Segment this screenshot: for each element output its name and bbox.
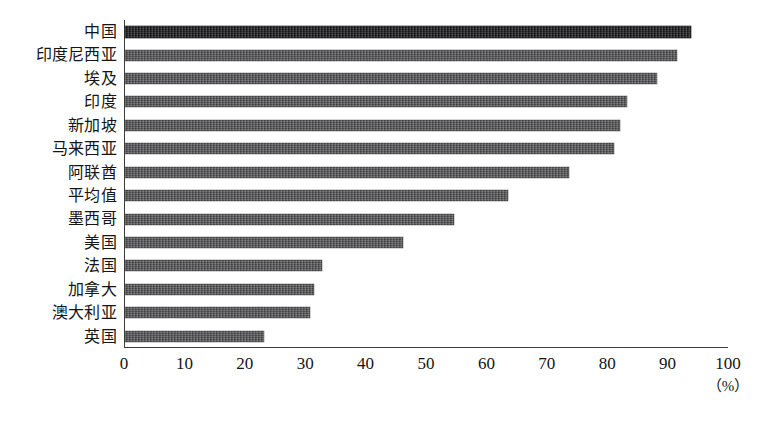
x-tick-label: 0 (120, 352, 129, 376)
bar (125, 26, 691, 38)
bar-row (125, 90, 728, 113)
category-label: 法国 (0, 254, 117, 277)
bar-row (125, 43, 728, 66)
bar-row (125, 301, 728, 324)
category-label: 平均值 (0, 184, 117, 207)
bar-row (125, 207, 728, 230)
category-label: 中国 (0, 20, 117, 43)
category-label: 美国 (0, 231, 117, 254)
bar-row (125, 231, 728, 254)
x-tick-label: 100 (715, 352, 741, 376)
bar-row (125, 137, 728, 160)
x-tick-label: 80 (599, 352, 616, 376)
category-label: 墨西哥 (0, 207, 117, 230)
bar (125, 96, 627, 107)
bar-chart: 中国印度尼西亚埃及印度新加坡马来西亚阿联酋平均值墨西哥美国法国加拿大澳大利亚英国… (0, 0, 762, 432)
bar (125, 214, 454, 225)
category-label: 加拿大 (0, 278, 117, 301)
category-label: 新加坡 (0, 114, 117, 137)
bar-row (125, 114, 728, 137)
bar (125, 73, 657, 84)
bar-row (125, 184, 728, 207)
category-label: 英国 (0, 325, 117, 348)
bar-row (125, 161, 728, 184)
x-tick-label: 60 (478, 352, 495, 376)
bar (125, 307, 310, 318)
bar-row (125, 20, 728, 43)
bar (125, 331, 264, 342)
x-tick-label: 10 (176, 352, 193, 376)
x-axis-tick-labels: 0102030405060708090100 (0, 352, 762, 378)
category-label: 澳大利亚 (0, 301, 117, 324)
bar-row (125, 67, 728, 90)
x-tick-label: 20 (236, 352, 253, 376)
bar (125, 50, 677, 61)
figure-caption (0, 424, 762, 432)
bar (125, 260, 322, 271)
bar-row (125, 254, 728, 277)
bar (125, 284, 314, 295)
x-tick-label: 30 (297, 352, 314, 376)
category-label: 埃及 (0, 67, 117, 90)
x-tick-label: 50 (418, 352, 435, 376)
x-tick-label: 70 (538, 352, 555, 376)
plot-area (124, 20, 728, 348)
category-axis-labels: 中国印度尼西亚埃及印度新加坡马来西亚阿联酋平均值墨西哥美国法国加拿大澳大利亚英国 (0, 20, 117, 348)
bar (125, 237, 403, 248)
x-tick-label: 40 (357, 352, 374, 376)
bar (125, 167, 569, 178)
bar (125, 120, 620, 131)
category-label: 印度尼西亚 (0, 43, 117, 66)
category-label: 阿联酋 (0, 161, 117, 184)
x-axis-unit-label: （%） (707, 376, 750, 396)
category-label: 马来西亚 (0, 137, 117, 160)
category-label: 印度 (0, 90, 117, 113)
bar-row (125, 278, 728, 301)
bar-row (125, 325, 728, 348)
bar (125, 190, 508, 201)
x-tick-label: 90 (659, 352, 676, 376)
bar (125, 143, 614, 154)
